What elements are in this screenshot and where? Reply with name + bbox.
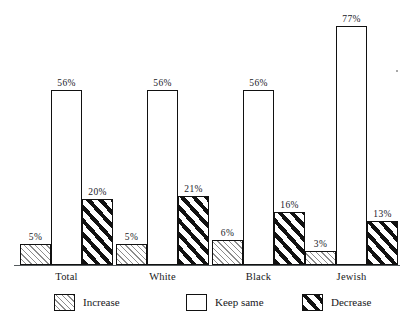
category-label-black: Black (212, 271, 305, 283)
bar-slot-keep-same: 77% (336, 15, 367, 265)
bar-value-label: 20% (88, 187, 106, 198)
bar-value-label: 56% (57, 78, 75, 89)
bar-value-label: 56% (153, 78, 171, 89)
hatch-fill-thick-icon (83, 200, 112, 264)
legend-item-increase[interactable]: Increase (54, 292, 120, 312)
plot-area: 5% 56% 20% Total (14, 8, 400, 266)
hatch-fill-thin-icon (213, 241, 242, 264)
bar-value-label: 6% (221, 228, 234, 239)
bar-group-black: 6% 56% 16% Black (212, 15, 305, 265)
bar-total-increase[interactable]: 5% (20, 244, 51, 265)
legend-item-keep-same[interactable]: Keep same (186, 292, 264, 312)
legend-swatch-decrease-icon (302, 294, 323, 311)
bar-slot-increase: 3% (305, 15, 336, 265)
legend-label-decrease: Decrease (331, 296, 371, 309)
bar-group-jewish: 3% 77% 13% Jewish (305, 15, 398, 265)
bar-value-label: 5% (125, 232, 138, 243)
bar-jewish-decrease[interactable]: 13% (367, 221, 398, 265)
bar-white-increase[interactable]: 5% (116, 244, 147, 265)
empty-fill-icon (148, 91, 177, 264)
bar-white-keep-same[interactable]: 56% (147, 90, 178, 265)
bar-slot-decrease: 21% (178, 15, 209, 265)
bar-slot-increase: 6% (212, 15, 243, 265)
bar-group-bars: 5% 56% 21% (116, 15, 209, 265)
category-label-total: Total (20, 271, 113, 283)
hatch-fill-thick-icon (303, 295, 322, 310)
bar-jewish-increase[interactable]: 3% (305, 251, 336, 265)
empty-fill-icon (187, 295, 206, 310)
category-label-white: White (116, 271, 209, 283)
empty-fill-icon (337, 27, 366, 264)
bar-white-decrease[interactable]: 21% (178, 196, 209, 265)
hatch-fill-thick-icon (368, 222, 397, 264)
bar-group-bars: 5% 56% 20% (20, 15, 113, 265)
chart-legend: Increase Keep same Decrease (14, 292, 400, 316)
bar-group-bars: 6% 56% 16% (212, 15, 305, 265)
bar-value-label: 16% (280, 200, 298, 211)
bar-slot-keep-same: 56% (147, 15, 178, 265)
legend-swatch-increase-icon (54, 294, 75, 311)
bar-value-label: 56% (249, 78, 267, 89)
bar-value-label: 5% (29, 232, 42, 243)
bar-jewish-keep-same[interactable]: 77% (336, 26, 367, 265)
bar-group-bars: 3% 77% 13% (305, 15, 398, 265)
bar-black-decrease[interactable]: 16% (274, 212, 305, 265)
bar-group-total: 5% 56% 20% Total (20, 15, 113, 265)
bar-slot-increase: 5% (20, 15, 51, 265)
bar-slot-decrease: 20% (82, 15, 113, 265)
hatch-fill-thin-icon (21, 245, 50, 264)
hatch-fill-thin-icon (306, 252, 335, 264)
bar-black-increase[interactable]: 6% (212, 240, 243, 265)
hatch-fill-thin-icon (55, 295, 74, 310)
bar-value-label: 77% (342, 14, 360, 25)
hatch-fill-thick-icon (275, 213, 304, 264)
bar-value-label: 3% (314, 239, 327, 250)
scan-speck (396, 70, 398, 72)
legend-label-keep-same: Keep same (215, 296, 264, 309)
hatch-fill-thin-icon (117, 245, 146, 264)
bar-total-decrease[interactable]: 20% (82, 199, 113, 265)
x-axis-line (14, 265, 400, 266)
bar-slot-keep-same: 56% (243, 15, 274, 265)
bar-slot-decrease: 16% (274, 15, 305, 265)
bar-slot-decrease: 13% (367, 15, 398, 265)
bar-slot-keep-same: 56% (51, 15, 82, 265)
legend-item-decrease[interactable]: Decrease (302, 292, 371, 312)
bar-chart: 5% 56% 20% Total (0, 0, 414, 329)
category-label-jewish: Jewish (305, 271, 398, 283)
bar-total-keep-same[interactable]: 56% (51, 90, 82, 265)
legend-label-increase: Increase (83, 296, 120, 309)
legend-swatch-keep-same-icon (186, 294, 207, 311)
hatch-fill-thick-icon (179, 197, 208, 264)
empty-fill-icon (244, 91, 273, 264)
bar-group-white: 5% 56% 21% White (116, 15, 209, 265)
bar-black-keep-same[interactable]: 56% (243, 90, 274, 265)
bar-value-label: 13% (373, 209, 391, 220)
bar-slot-increase: 5% (116, 15, 147, 265)
bar-value-label: 21% (184, 184, 202, 195)
empty-fill-icon (52, 91, 81, 264)
